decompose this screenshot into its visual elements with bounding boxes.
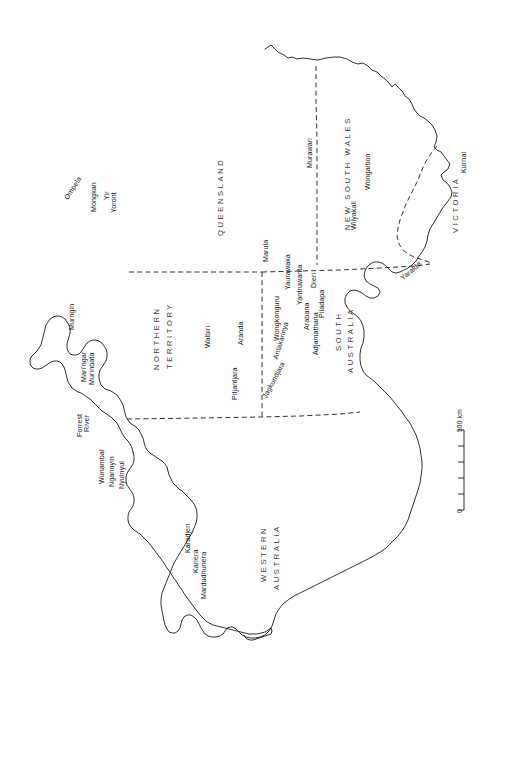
border-qld-nsw: [316, 66, 317, 265]
scale-bar-ticks: [458, 430, 464, 510]
border-nsw-vic: [397, 146, 437, 263]
border-sa-qld-nsw: [262, 264, 430, 272]
coastline-group: [30, 45, 452, 640]
southwest-coastline: [126, 452, 272, 640]
border-wa-nt-sa: [127, 412, 360, 419]
state-borders-group: [127, 66, 437, 419]
scale-bar-group: [458, 430, 464, 510]
map-page: QUEENSLAND NEW SOUTH WALES VICTORIA SOUT…: [0, 0, 521, 779]
mainland-coastline: [30, 45, 452, 638]
australia-map-svg: [0, 0, 521, 779]
